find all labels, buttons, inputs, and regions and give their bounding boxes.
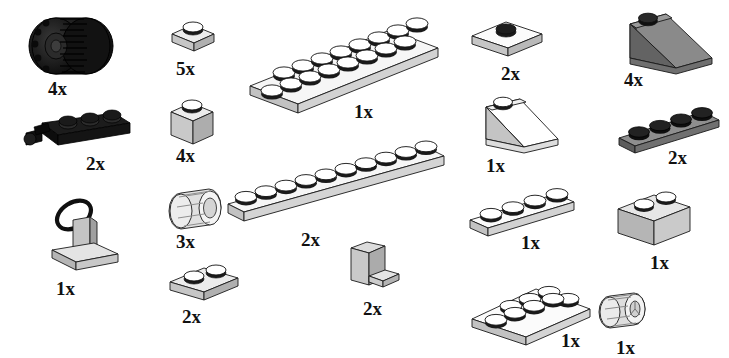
qty-slope-1x3-white: 1x — [486, 156, 505, 175]
qty-plate-1x4-dark: 2x — [668, 148, 687, 167]
part-plate-1x1 — [168, 16, 220, 56]
black-plate-body — [24, 110, 130, 145]
qty-slope-1x3-dark: 4x — [624, 70, 643, 89]
qty-tire: 4x — [48, 79, 67, 98]
qty-plate-1x2-gray: 2x — [182, 307, 201, 326]
qty-plate-1x10: 2x — [301, 230, 320, 249]
bracket-body — [351, 242, 399, 287]
qty-brick-1x2: 1x — [650, 253, 669, 272]
part-plate-1x2-jumper — [466, 14, 550, 58]
plate-1x1-body — [172, 22, 214, 51]
slope-dark-body — [630, 13, 712, 74]
qty-plate-1x1: 5x — [176, 59, 195, 78]
part-brick-1x1 — [167, 95, 221, 151]
qty-plate-2x4-white: 1x — [561, 331, 580, 350]
wheel-rim-body — [169, 189, 221, 229]
part-plate-black-ball-joint — [24, 109, 134, 155]
part-slope-1x3-dark — [614, 10, 724, 78]
plate-1x10-body — [228, 141, 444, 221]
slope-white-body — [486, 97, 558, 153]
part-plate-1x4-dark — [613, 106, 725, 152]
part-brick-1x2 — [612, 189, 702, 251]
part-slope-1x3-white — [468, 95, 568, 157]
tire-body — [29, 18, 113, 74]
qty-plate-1x4-white: 1x — [521, 233, 540, 252]
qty-wheel-rim-small: 1x — [616, 338, 635, 357]
qty-plate-1x2-jumper: 2x — [501, 64, 520, 83]
jumper-plate-body — [472, 22, 542, 56]
qty-plate-black-ball-joint: 2x — [86, 154, 105, 173]
brick-1x2-body — [618, 192, 690, 245]
wheel-rim-small-body — [599, 293, 645, 328]
part-steering-wheel-assembly — [38, 198, 138, 276]
qty-bracket: 2x — [363, 299, 382, 318]
part-plate-1x4-white — [464, 188, 580, 236]
brick-1x1-body — [171, 100, 213, 144]
plate-1x4-white-body — [470, 189, 574, 236]
part-plate-1x2-gray — [166, 260, 246, 302]
qty-wheel-rim: 3x — [176, 232, 195, 251]
plate-2x8-body — [250, 18, 438, 113]
part-plate-2x8 — [244, 14, 444, 102]
qty-steering-wheel-assembly: 1x — [56, 279, 75, 298]
part-plate-1x10 — [222, 142, 452, 222]
part-bracket — [345, 236, 405, 292]
qty-brick-1x1: 4x — [176, 146, 195, 165]
plate-1x2-body — [170, 265, 238, 300]
part-wheel-rim-small — [600, 288, 656, 332]
part-plate-2x4-white — [466, 275, 596, 337]
qty-plate-2x8: 1x — [354, 102, 373, 121]
part-tire-balloon-black — [30, 14, 112, 78]
